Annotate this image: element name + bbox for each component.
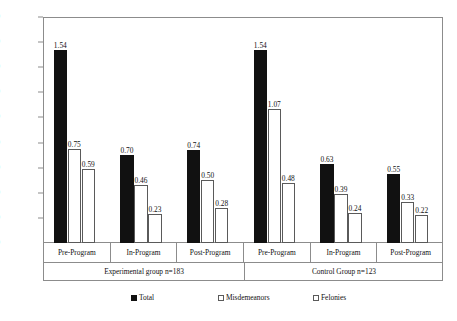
group-axis-row: Experimental group n=183Control Group n=… [43, 263, 443, 281]
bar-felonies: 0.24 [348, 213, 362, 243]
y-axis: 0.000.200.400.600.801.001.201.401.601.80 [0, 0, 43, 243]
legend-label: Felonies [321, 293, 346, 302]
legend-swatch-icon [313, 295, 319, 301]
bar-misdemeanors: 0.50 [201, 180, 215, 243]
bar-misdemeanors: 0.75 [68, 149, 82, 243]
bar-value-label: 0.55 [387, 165, 400, 174]
bar-value-label: 0.23 [149, 205, 162, 214]
bar-value-label: 0.39 [335, 185, 348, 194]
bar-misdemeanors: 0.39 [334, 194, 348, 243]
category-label: In-Program [311, 243, 378, 262]
category-axis-row: Pre-ProgramIn-ProgramPost-ProgramPre-Pro… [43, 243, 443, 263]
bar-value-label: 1.54 [254, 41, 267, 50]
legend-item-felonies: Felonies [313, 292, 346, 304]
bar-felonies: 0.48 [282, 183, 296, 243]
bar-chart: 0.000.200.400.600.801.001.201.401.601.80… [0, 0, 457, 321]
group-divider [244, 263, 245, 280]
legend-swatch-icon [218, 295, 224, 301]
category-label: Post-Program [377, 243, 444, 262]
bar-value-label: 0.48 [282, 174, 295, 183]
bar-value-label: 0.59 [82, 160, 95, 169]
legend-label: Misdemeanors [226, 293, 270, 302]
legend-label: Total [139, 293, 154, 302]
bar-value-label: 0.70 [121, 146, 134, 155]
bar-felonies: 0.28 [215, 208, 229, 243]
bar-total: 1.54 [254, 50, 268, 243]
bar-misdemeanors: 0.33 [401, 202, 415, 243]
category-label: In-Program [111, 243, 178, 262]
bar-misdemeanors: 1.07 [268, 109, 282, 243]
category-label: Pre-Program [244, 243, 311, 262]
bar-misdemeanors: 0.46 [134, 185, 148, 243]
bar-value-label: 0.46 [135, 176, 148, 185]
legend-item-misdemeanors: Misdemeanors [218, 292, 270, 304]
bar-total: 0.63 [320, 164, 334, 243]
bar-total: 0.70 [120, 155, 134, 243]
bar-felonies: 0.22 [415, 215, 429, 243]
bar-group: 0.630.390.24 [320, 17, 362, 243]
bar-total: 1.54 [54, 50, 68, 243]
bar-total: 0.55 [387, 174, 401, 243]
bar-felonies: 0.23 [148, 214, 162, 243]
bar-value-label: 0.24 [349, 204, 362, 213]
bar-value-label: 0.33 [401, 193, 414, 202]
bar-group: 1.541.070.48 [254, 17, 296, 243]
bar-group: 0.550.330.22 [387, 17, 429, 243]
bar-value-label: 0.28 [215, 199, 228, 208]
bar-value-label: 1.54 [54, 41, 67, 50]
bar-value-label: 0.50 [201, 171, 214, 180]
group-label: Experimental group n=183 [44, 263, 244, 280]
bar-value-label: 0.75 [68, 140, 81, 149]
bars-layer: 1.540.750.590.700.460.230.740.500.281.54… [43, 17, 443, 243]
bar-value-label: 1.07 [268, 100, 281, 109]
bar-group: 0.700.460.23 [120, 17, 162, 243]
legend-item-total: Total [131, 292, 154, 304]
bar-total: 0.74 [187, 150, 201, 243]
bar-group: 0.740.500.28 [187, 17, 229, 243]
bar-value-label: 0.22 [415, 206, 428, 215]
bar-felonies: 0.59 [82, 169, 96, 243]
category-label: Post-Program [177, 243, 244, 262]
group-label: Control Group n=123 [244, 263, 444, 280]
legend-swatch-icon [131, 295, 137, 301]
bar-value-label: 0.74 [187, 141, 200, 150]
chart-legend: TotalMisdemeanorsFelonies [43, 292, 443, 306]
bar-value-label: 0.63 [321, 155, 334, 164]
bar-group: 1.540.750.59 [54, 17, 96, 243]
category-label: Pre-Program [44, 243, 111, 262]
